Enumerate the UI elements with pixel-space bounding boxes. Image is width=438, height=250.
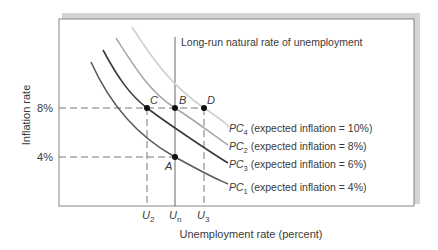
point-b xyxy=(172,105,178,111)
point-d-label: D xyxy=(207,94,215,106)
point-a xyxy=(172,154,178,160)
frame-shadow-top xyxy=(62,13,420,19)
x-tick-u2: U2 xyxy=(142,209,155,224)
x-axis-label: Unemployment rate (percent) xyxy=(179,228,322,240)
y-tick-4: 4% xyxy=(37,151,53,163)
point-a-label: A xyxy=(164,160,172,172)
x-tick-un: Un xyxy=(169,209,181,224)
x-tick-u3: U3 xyxy=(197,209,210,224)
y-axis-label: Inflation rate xyxy=(20,85,32,146)
frame-shadow-right xyxy=(414,13,420,204)
point-b-label: B xyxy=(179,94,186,106)
y-tick-8: 8% xyxy=(37,102,53,114)
phillips-curve-chart: Long-run natural rate of unemployment C … xyxy=(0,0,438,250)
point-c-label: C xyxy=(150,94,158,106)
long-run-label: Long-run natural rate of unemployment xyxy=(181,36,363,48)
